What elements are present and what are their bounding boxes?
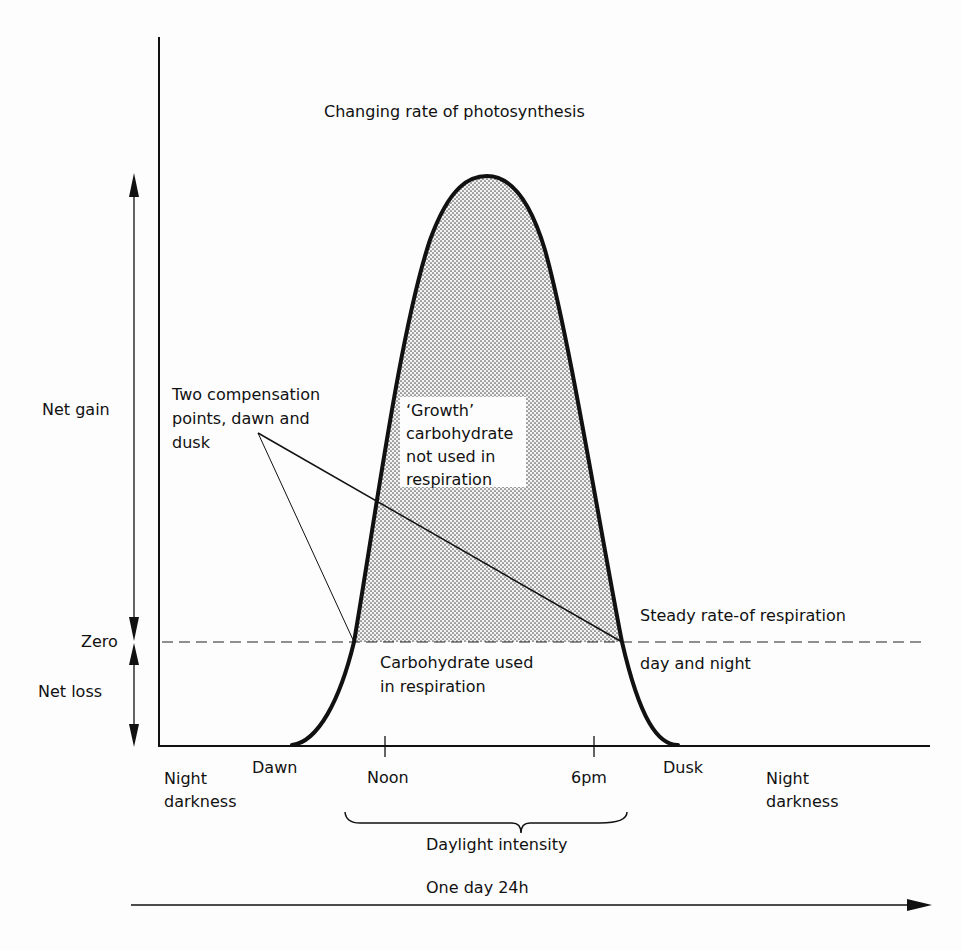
daylight-brace [345, 812, 627, 833]
night-right-line1: Night [766, 768, 809, 789]
dusk-label: Dusk [663, 757, 703, 778]
growth-label-line2: carbohydrate [406, 422, 522, 445]
compensation-label-line3: dusk [172, 432, 210, 453]
net-gain-arrowhead-down-icon [129, 617, 139, 641]
night-left-line1: Night [164, 768, 207, 789]
carbohydrate-used-line1: Carbohydrate used [380, 652, 533, 673]
net-gain-label: Net gain [42, 399, 110, 420]
diagram-title: Changing rate of photosynthesis [324, 101, 585, 122]
steady-respiration-label-line1: Steady rate-of respiration [640, 605, 846, 626]
zero-label: Zero [81, 631, 118, 652]
growth-label-line4: respiration [406, 468, 522, 491]
net-loss-arrowhead-down-icon [129, 724, 139, 747]
compensation-label-line2: points, dawn and [172, 408, 310, 429]
growth-label-line3: not used in [406, 445, 522, 468]
daylight-intensity-label: Daylight intensity [426, 834, 568, 855]
time-arrowhead-icon [907, 899, 932, 911]
growth-label-line1: ‘Growth’ [406, 399, 522, 422]
net-loss-arrowhead-up-icon [129, 643, 139, 665]
net-gain-arrowhead-up-icon [129, 173, 139, 197]
noon-label: Noon [367, 767, 409, 788]
night-right-line2: darkness [766, 791, 838, 812]
carbohydrate-used-line2: in respiration [380, 676, 486, 697]
six-pm-label: 6pm [571, 767, 607, 788]
one-day-label: One day 24h [426, 877, 529, 898]
pointer-dawn-compensation [258, 433, 354, 642]
net-loss-label: Net loss [38, 681, 102, 702]
growth-carbohydrate-label: ‘Growth’ carbohydrate not used in respir… [400, 397, 526, 487]
night-left-line2: darkness [164, 791, 236, 812]
compensation-label-line1: Two compensation [172, 384, 320, 405]
dawn-label: Dawn [252, 757, 297, 778]
steady-respiration-label-line2: day and night [640, 653, 751, 674]
